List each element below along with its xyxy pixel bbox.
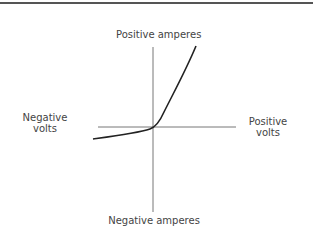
positive-volts-label: Positive volts — [238, 116, 298, 138]
negative-amperes-label: Negative amperes — [104, 215, 204, 226]
positive-volts-line1: Positive — [238, 116, 298, 127]
characteristic-curve — [93, 46, 196, 139]
negative-volts-line1: Negative — [15, 112, 75, 123]
negative-volts-line2: volts — [15, 123, 75, 134]
positive-amperes-label: Positive amperes — [116, 29, 196, 40]
positive-volts-line2: volts — [238, 127, 298, 138]
negative-volts-label: Negative volts — [15, 112, 75, 134]
